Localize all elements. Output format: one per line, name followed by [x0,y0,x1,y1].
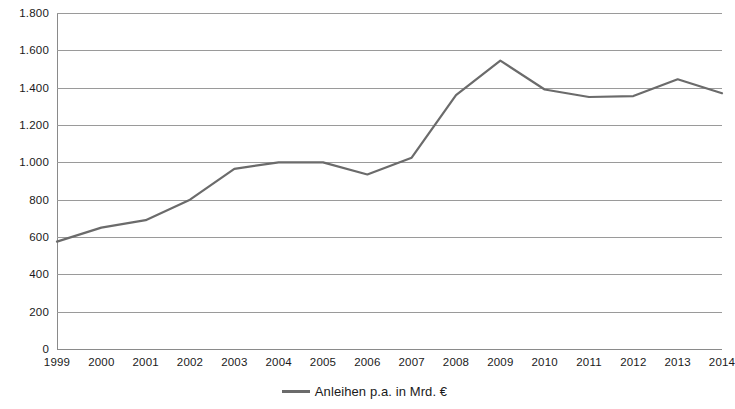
chart-legend: Anleihen p.a. in Mrd. € [0,384,729,399]
x-tick-label-1999: 1999 [44,356,70,368]
legend-label: Anleihen p.a. in Mrd. € [315,384,447,399]
y-axis-tick-labels: 02004006008001.0001.2001.4001.6001.800 [0,0,49,409]
x-tick-label-2009: 2009 [487,356,513,368]
x-tick-label-2006: 2006 [354,356,380,368]
y-tick-label-400: 400 [1,268,49,280]
y-tick-label-1200: 1.200 [1,119,49,131]
x-tick-label-2007: 2007 [398,356,424,368]
x-tick-label-2008: 2008 [443,356,469,368]
x-tick-label-2010: 2010 [531,356,557,368]
y-tick-label-1000: 1.000 [1,156,49,168]
x-tick-label-2005: 2005 [310,356,336,368]
x-axis-tick-labels: 1999200020012002200320042005200620072008… [57,356,722,376]
y-tick-label-1600: 1.600 [1,44,49,56]
x-tick-label-2013: 2013 [664,356,690,368]
plot-area [57,13,722,349]
y-tick-label-200: 200 [1,306,49,318]
x-tick-label-2003: 2003 [221,356,247,368]
x-tick-label-2001: 2001 [132,356,158,368]
x-tick-label-2011: 2011 [576,356,602,368]
y-tick-label-800: 800 [1,194,49,206]
y-tick-label-600: 600 [1,231,49,243]
series-layer [57,13,722,349]
y-tick-label-0: 0 [1,343,49,355]
y-tick-label-1800: 1.800 [1,7,49,19]
series-line-anleihen [57,61,722,242]
y-tick-label-1400: 1.400 [1,82,49,94]
legend-line-swatch [282,390,310,392]
x-tick-label-2012: 2012 [620,356,646,368]
x-tick-label-2000: 2000 [88,356,114,368]
x-tick-label-2002: 2002 [177,356,203,368]
x-tick-label-2004: 2004 [265,356,291,368]
x-tick-label-2014: 2014 [709,356,735,368]
gridline-0 [57,349,722,350]
